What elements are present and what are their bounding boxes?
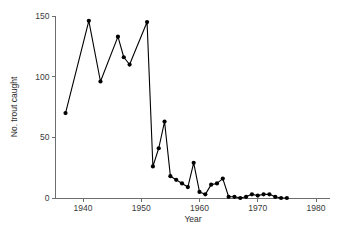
data-point [250, 192, 254, 196]
data-point [215, 181, 219, 185]
y-tick-label: 150 [35, 11, 49, 21]
data-point [186, 185, 190, 189]
trout-catch-line-chart: 050100150 19401950196019701980 Year No. … [0, 0, 347, 234]
data-point [63, 111, 67, 115]
data-point [174, 178, 178, 182]
data-point [98, 79, 102, 83]
data-point [116, 35, 120, 39]
series-markers [63, 19, 289, 200]
y-tick-label: 0 [45, 193, 50, 203]
data-point [203, 192, 207, 196]
axes-group [56, 16, 331, 199]
chart-figure: 050100150 19401950196019701980 Year No. … [0, 0, 347, 234]
data-point [273, 195, 277, 199]
data-point [87, 19, 91, 23]
x-tick-label: 1970 [248, 203, 267, 213]
data-point [145, 20, 149, 24]
y-axis-ticks: 050100150 [35, 11, 55, 203]
x-tick-label: 1950 [132, 203, 151, 213]
data-point [279, 196, 283, 200]
y-tick-label: 100 [35, 72, 49, 82]
x-tick-label: 1980 [307, 203, 326, 213]
data-point [192, 161, 196, 165]
data-point [197, 190, 201, 194]
data-point [157, 146, 161, 150]
x-tick-label: 1960 [190, 203, 209, 213]
x-axis-ticks: 19401950196019701980 [74, 198, 326, 213]
data-point [151, 164, 155, 168]
data-point [285, 196, 289, 200]
data-point [244, 195, 248, 199]
data-point [162, 119, 166, 123]
data-point [238, 196, 242, 200]
data-point [267, 192, 271, 196]
y-axis-title: No. trout caught [9, 76, 19, 137]
data-point [122, 55, 126, 59]
x-axis-title: Year [184, 214, 201, 224]
y-tick-label: 50 [40, 132, 50, 142]
data-point [256, 193, 260, 197]
data-point [180, 181, 184, 185]
data-point [128, 62, 132, 66]
data-point [232, 195, 236, 199]
data-point [227, 195, 231, 199]
data-point [261, 192, 265, 196]
data-point [221, 176, 225, 180]
series-line-no-trout-caught [66, 21, 287, 198]
data-point [168, 174, 172, 178]
x-tick-label: 1940 [74, 203, 93, 213]
data-point [209, 183, 213, 187]
